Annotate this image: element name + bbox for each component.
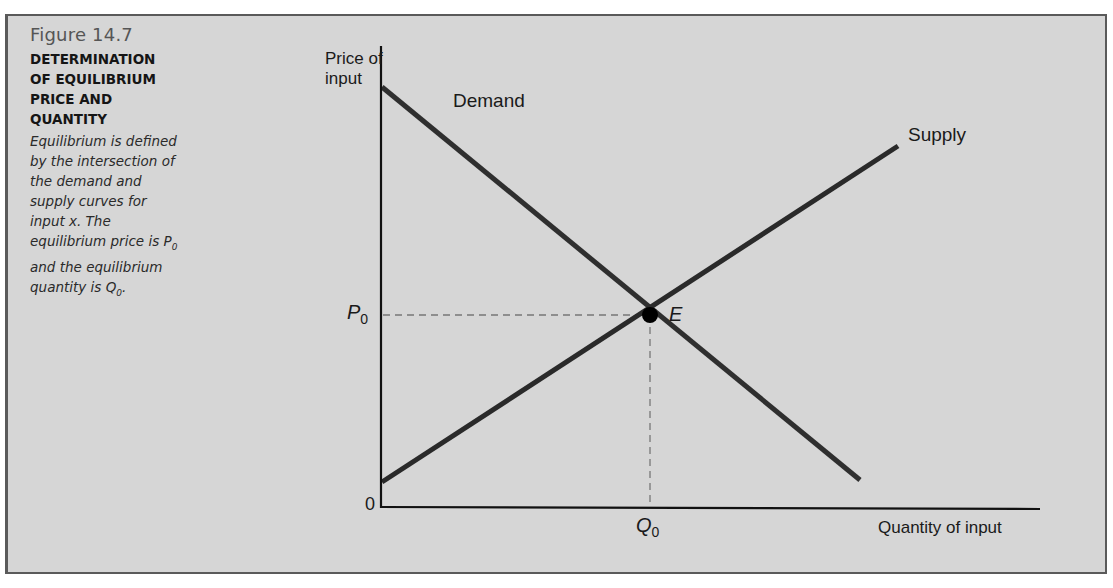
origin-label: 0 <box>365 494 375 515</box>
supply-curve <box>382 146 898 482</box>
demand-label: Demand <box>453 90 525 112</box>
y-axis-title: Price of input <box>325 49 383 89</box>
demand-curve <box>382 87 860 480</box>
equilibrium-point <box>642 307 658 323</box>
q0-label: Q0 <box>636 514 659 540</box>
equilibrium-label: E <box>669 303 682 326</box>
supply-demand-chart <box>0 0 1113 588</box>
x-axis-title: Quantity of input <box>878 518 1002 538</box>
x-axis <box>380 507 1040 509</box>
p0-label: P0 <box>347 301 368 327</box>
supply-label: Supply <box>908 124 966 146</box>
